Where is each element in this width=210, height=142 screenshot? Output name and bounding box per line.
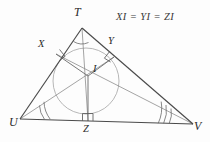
angle-arc-marks: [40, 42, 172, 124]
point-label-X: X: [38, 39, 44, 50]
equality-caption: XI = YI = ZI: [116, 11, 174, 22]
point-label-I: I: [93, 64, 97, 75]
side-TU: [20, 28, 82, 119]
geometry-figure: T U V X Y Z I XI = YI = ZI: [0, 0, 210, 142]
radius-I-Y: [88, 57, 114, 76]
inradius-group: [56, 54, 114, 121]
diagram-canvas: [0, 0, 210, 142]
arc-mark-U-2: [44, 102, 50, 119]
side-UV: [20, 119, 193, 124]
bisector-U-to-Y: [20, 57, 114, 119]
right-angle-marks: [59, 50, 110, 122]
triangle-TUV: [20, 28, 193, 124]
vertex-label-U: U: [9, 116, 18, 128]
point-label-Z: Z: [83, 124, 89, 135]
arc-mark-V-2: [164, 105, 167, 123]
vertex-label-V: V: [194, 120, 201, 132]
arc-mark-U-1: [40, 106, 45, 120]
point-label-Y: Y: [108, 36, 114, 47]
right-angle-mark-X: [59, 50, 65, 61]
radius-I-X: [56, 54, 88, 76]
vertex-label-T: T: [74, 6, 81, 18]
arc-mark-T-1: [74, 42, 89, 44]
arc-mark-V-3: [158, 102, 162, 124]
angle-bisector-group: [20, 28, 193, 124]
arc-mark-V-1: [169, 109, 171, 124]
